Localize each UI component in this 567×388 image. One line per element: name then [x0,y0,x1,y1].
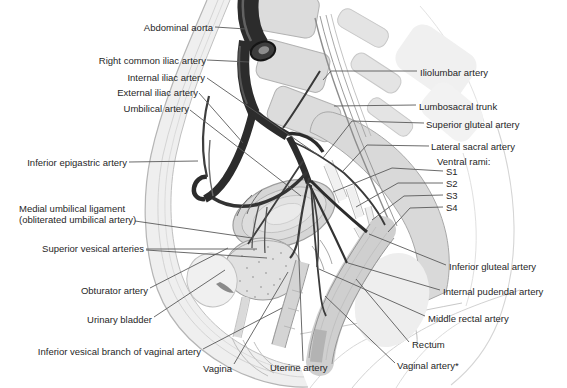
label-vaginal-artery: Vaginal artery* [397,360,459,371]
label-external-iliac-artery: External iliac artery [117,87,198,98]
label-s3: S3 [446,190,458,201]
label-iliolumbar-artery: Iliolumbar artery [420,67,488,78]
label-abdominal-aorta: Abdominal aorta [144,22,213,33]
label-inferior-epigastric-artery: Inferior epigastric artery [27,157,127,168]
label-rectum: Rectum [412,339,445,350]
label-superior-gluteal-artery: Superior gluteal artery [426,119,519,130]
label-inferior-vesical-branch: Inferior vesical branch of vaginal arter… [38,346,201,357]
medial-umbilical-ligament-line [209,140,213,196]
label-s4: S4 [446,202,458,213]
label-uterine-artery: Uterine artery [270,362,328,373]
label-medial-umbilical-ligament: Medial umbilical ligament (obliterated u… [19,203,136,225]
label-right-common-iliac-artery: Right common iliac artery [99,55,206,66]
label-umbilical-artery: Umbilical artery [124,103,189,114]
label-superior-vesical-arteries: Superior vesical arteries [42,243,144,254]
label-internal-pudendal-artery: Internal pudendal artery [443,286,543,297]
label-obturator-artery: Obturator artery [81,285,148,296]
label-inferior-gluteal-artery: Inferior gluteal artery [449,261,536,272]
label-middle-rectal-artery: Middle rectal artery [428,313,509,324]
anatomy-figure: Abdominal aorta Right common iliac arter… [0,0,567,388]
label-s1: S1 [446,166,458,177]
label-ventral-rami: Ventral rami: [437,156,490,167]
label-lateral-sacral-artery: Lateral sacral artery [431,141,515,152]
label-lumbosacral-trunk: Lumbosacral trunk [419,101,497,112]
external-iliac-vessel [205,112,253,199]
label-vagina: Vagina [203,363,232,374]
label-internal-iliac-artery: Internal iliac artery [127,72,205,83]
anatomy-illustration [0,0,567,388]
label-urinary-bladder: Urinary bladder [87,314,152,325]
inferior-epigastric-vessel [203,96,209,177]
label-s2: S2 [446,178,458,189]
